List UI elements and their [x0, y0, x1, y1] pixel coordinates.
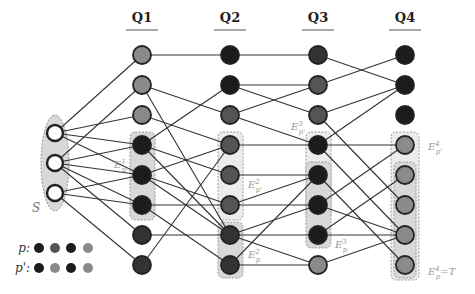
edge: [142, 175, 230, 205]
node-q1: [133, 166, 151, 184]
column-header-q2: Q2: [220, 10, 240, 25]
legend-dot: [83, 263, 93, 273]
edge: [142, 85, 230, 115]
node-q2: [221, 136, 239, 154]
legend-dot: [50, 263, 60, 273]
legend: p:p':: [15, 241, 93, 275]
legend-label: p':: [15, 261, 30, 275]
legend-dot: [66, 243, 76, 253]
edge: [230, 175, 318, 205]
node-q2: [221, 226, 239, 244]
node-q4: [396, 256, 414, 274]
node-q3: [309, 76, 327, 94]
node-q3: [309, 106, 327, 124]
legend-label: p:: [18, 241, 30, 255]
node-q2: [221, 76, 239, 94]
source-node: [47, 125, 63, 141]
legend-dot: [83, 243, 93, 253]
column-header-q4: Q4: [395, 10, 415, 25]
node-q1: [133, 136, 151, 154]
group-label-E_p3: E3p: [334, 238, 348, 254]
legend-dot: [66, 263, 76, 273]
node-q1: [133, 46, 151, 64]
group-label-E_pprime4: E4p': [427, 140, 442, 156]
column-header-q1: Q1: [132, 10, 152, 25]
edge: [55, 55, 142, 133]
column-headers: Q1Q2Q3Q4: [126, 10, 421, 30]
node-q3: [309, 46, 327, 64]
node-q4: [396, 76, 414, 94]
node-q1: [133, 76, 151, 94]
group-label-E_pprime2: E2p': [247, 178, 262, 194]
node-q1: [133, 106, 151, 124]
node-q3: [309, 166, 327, 184]
edge: [142, 85, 230, 145]
legend-dot: [34, 263, 44, 273]
legend-dot: [50, 243, 60, 253]
node-q2: [221, 106, 239, 124]
node-q4: [396, 46, 414, 64]
node-q2: [221, 196, 239, 214]
legend-dot: [34, 243, 44, 253]
node-q3: [309, 136, 327, 154]
edge: [55, 193, 142, 265]
node-q4: [396, 106, 414, 124]
node-q2: [221, 46, 239, 64]
column-header-q3: Q3: [308, 10, 328, 25]
source-set-label: S: [32, 201, 40, 215]
edge: [318, 85, 405, 115]
query-graph-diagram: S Q1Q2Q3Q4 E1pE2pE2p'E3p'E3pE4p'E4p=T p:…: [0, 0, 475, 294]
group-label-E_p2: E2p: [247, 248, 261, 264]
node-q1: [133, 226, 151, 244]
node-q3: [309, 256, 327, 274]
edge: [55, 85, 142, 163]
node-q3: [309, 226, 327, 244]
group-label-E_pprime3: E3p': [290, 120, 305, 136]
node-q4: [396, 196, 414, 214]
node-q1: [133, 196, 151, 214]
source-node: [47, 155, 63, 171]
node-q1: [133, 256, 151, 274]
node-q3: [309, 196, 327, 214]
node-q4: [396, 136, 414, 154]
node-q2: [221, 166, 239, 184]
node-q4: [396, 166, 414, 184]
node-q4: [396, 226, 414, 244]
source-node: [47, 185, 63, 201]
node-q2: [221, 256, 239, 274]
group-label-E_p4: E4p=T: [427, 265, 457, 281]
node-groups: [130, 132, 419, 280]
